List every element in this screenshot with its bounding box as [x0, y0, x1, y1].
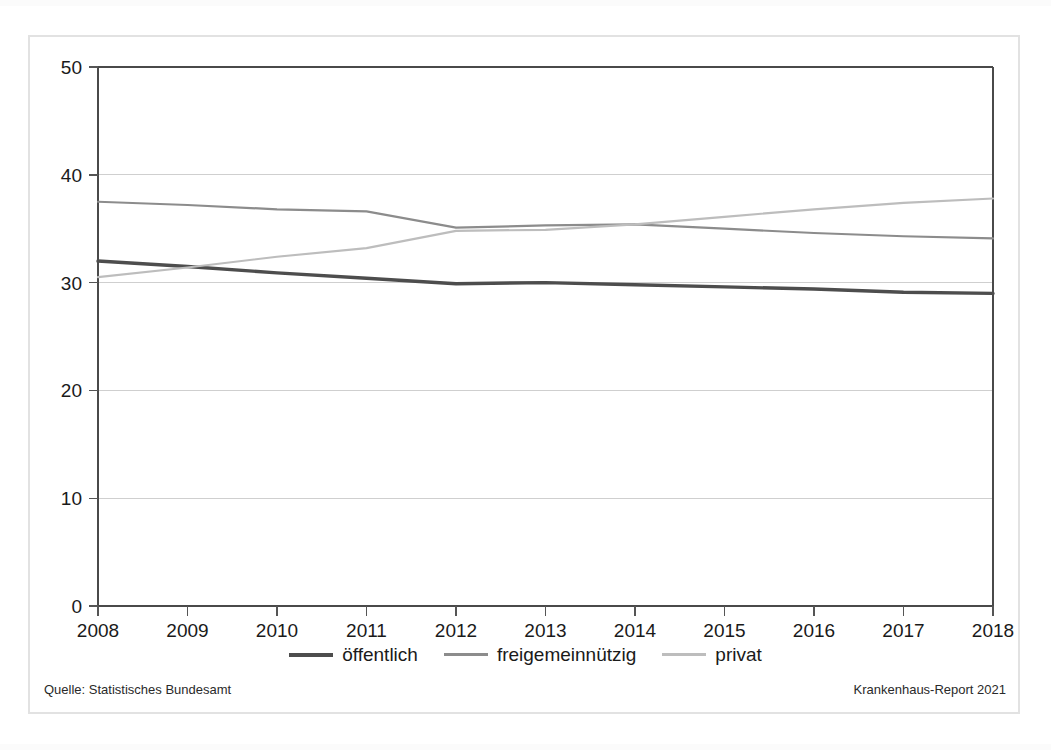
y-tick-label: 20 — [61, 380, 82, 401]
axes — [98, 67, 993, 606]
report-note: Krankenhaus-Report 2021 — [854, 682, 1007, 697]
legend-swatch-oeffentlich — [289, 653, 333, 657]
y-axis-ticks: 01020304050 — [61, 57, 98, 617]
x-tick-label: 2014 — [614, 620, 657, 641]
x-tick-label: 2013 — [524, 620, 566, 641]
legend-item-privat[interactable]: privat — [662, 645, 761, 664]
legend-label-freigemeinnuetzig: freigemeinnützig — [497, 645, 636, 664]
legend-swatch-privat — [662, 653, 706, 656]
figure-footer: Quelle: Statistisches Bundesamt Krankenh… — [44, 682, 1006, 697]
x-tick-label: 2015 — [703, 620, 745, 641]
chart-legend: öffentlich freigemeinnützig privat — [0, 645, 1051, 664]
x-tick-label: 2011 — [346, 620, 387, 641]
y-tick-label: 0 — [71, 596, 82, 617]
x-tick-label: 2010 — [256, 620, 298, 641]
legend-label-oeffentlich: öffentlich — [342, 645, 418, 664]
x-tick-label: 2016 — [793, 620, 835, 641]
y-tick-label: 30 — [61, 273, 82, 294]
legend-label-privat: privat — [715, 645, 761, 664]
series-layer — [98, 199, 993, 294]
series-line-privat — [98, 199, 993, 278]
source-note: Quelle: Statistisches Bundesamt — [44, 682, 231, 697]
y-tick-label: 40 — [61, 165, 82, 186]
legend-item-freigemeinnuetzig[interactable]: freigemeinnützig — [444, 645, 636, 664]
line-chart: 01020304050 2008200920102011201220132014… — [0, 0, 1051, 750]
series-line-freigemeinn-tzig — [98, 202, 993, 239]
x-tick-label: 2008 — [77, 620, 119, 641]
x-tick-label: 2018 — [972, 620, 1014, 641]
legend-item-oeffentlich[interactable]: öffentlich — [289, 645, 418, 664]
plot-wrapper: 01020304050 2008200920102011201220132014… — [0, 0, 1051, 750]
figure-root: 01020304050 2008200920102011201220132014… — [0, 0, 1051, 750]
legend-swatch-freigemeinnuetzig — [444, 653, 488, 656]
series-line--ffentlich — [98, 261, 993, 293]
x-tick-label: 2017 — [882, 620, 924, 641]
x-axis-ticks: 2008200920102011201220132014201520162017… — [77, 606, 1014, 641]
x-tick-label: 2012 — [435, 620, 477, 641]
y-tick-label: 50 — [61, 57, 82, 78]
y-tick-label: 10 — [61, 488, 82, 509]
x-tick-label: 2009 — [166, 620, 208, 641]
